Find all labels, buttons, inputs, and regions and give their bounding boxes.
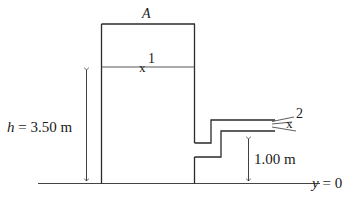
tank-label: A — [141, 6, 151, 21]
point2-label: 2 — [296, 106, 303, 121]
datum-label: y = 0 — [310, 175, 342, 191]
height-label: h = 3.50 m — [7, 119, 72, 135]
tank — [102, 24, 196, 184]
tank-outflow-diagram: A x 1 x 2 h = 3.50 m 1.00 m y = 0 — [0, 0, 347, 197]
point1-marker: x — [139, 60, 146, 75]
point2-marker: x — [286, 116, 293, 131]
point1-label: 1 — [148, 51, 155, 66]
outlet-height-label: 1.00 m — [254, 151, 296, 167]
